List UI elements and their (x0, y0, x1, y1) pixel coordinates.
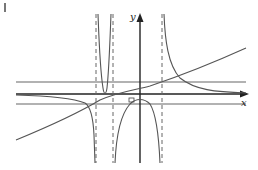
y-axis-label: y (130, 12, 136, 22)
curve-u-branch (98, 14, 111, 93)
function-graph (0, 0, 258, 170)
x-axis-label: x (241, 98, 247, 108)
y-axis-arrow-icon (137, 13, 144, 22)
curve-left-branch (16, 95, 95, 163)
curve-inverted-u-branch (115, 100, 160, 164)
